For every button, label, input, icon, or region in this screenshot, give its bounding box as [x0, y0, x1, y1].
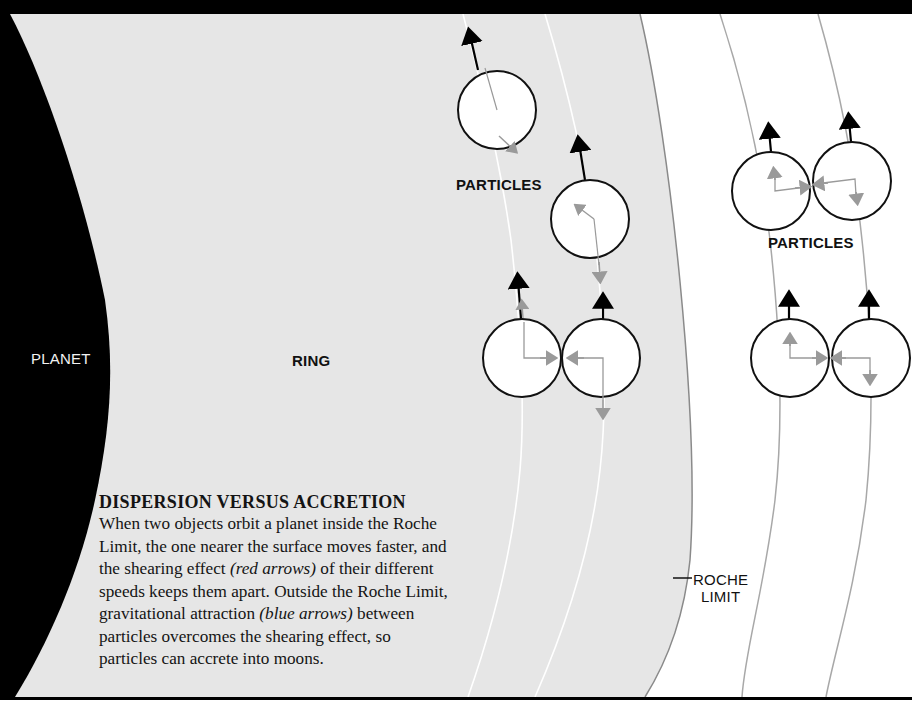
top-frame-bar — [0, 0, 912, 14]
particles-label-inside: PARTICLES — [456, 176, 542, 193]
particles-label-outside: PARTICLES — [768, 234, 854, 251]
roche-label-line1: ROCHE — [693, 571, 748, 588]
bottom-frame-line — [0, 697, 912, 700]
caption-blue-arrows: (blue arrows) — [259, 604, 352, 623]
shear-arrow-right — [856, 192, 857, 200]
roche-label-line2: LIMIT — [693, 588, 748, 605]
bottom-margin — [0, 700, 912, 711]
shear-arrow-left — [522, 304, 523, 318]
shear-arrow-down — [599, 262, 600, 278]
particle-circle-left — [732, 152, 810, 230]
roche-limit-label: ROCHE LIMIT — [693, 571, 748, 605]
ring-label: RING — [292, 352, 330, 369]
attraction-arrow-right — [818, 183, 828, 184]
caption-red-arrows: (red arrows) — [230, 559, 316, 578]
caption-body: When two objects orbit a planet inside t… — [99, 513, 449, 671]
shear-arrow-left — [774, 172, 775, 180]
caption-title: DISPERSION VERSUS ACCRETION — [99, 492, 449, 513]
planet-label: PLANET — [31, 350, 91, 367]
figure-caption: DISPERSION VERSUS ACCRETION When two obj… — [99, 492, 449, 671]
particle-circle-right — [813, 142, 891, 220]
attraction-arrow-left — [795, 187, 806, 188]
particle-circle — [551, 180, 629, 258]
roche-limit-diagram: PLANET RING PARTICLES PARTICLES ROCHE LI… — [0, 0, 912, 711]
